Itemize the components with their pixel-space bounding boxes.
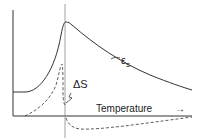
delta-s-curve bbox=[25, 64, 65, 116]
epsilon-s-label: εs bbox=[121, 54, 130, 69]
delta-s-label: ΔS bbox=[73, 78, 88, 90]
diagram-canvas: ΔS εs Temperature → bbox=[0, 0, 199, 140]
epsilon-s-curve bbox=[13, 22, 192, 92]
x-axis-arrow: → bbox=[175, 103, 185, 114]
delta-s-curve-below bbox=[66, 117, 192, 129]
x-axis-label: Temperature bbox=[96, 103, 153, 114]
delta-s-leader bbox=[66, 93, 72, 103]
